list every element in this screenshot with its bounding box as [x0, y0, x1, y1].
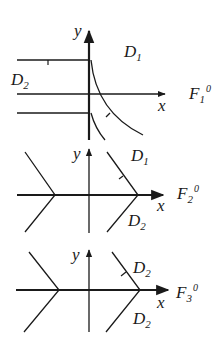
panel3-region-d2-upper: D2	[133, 259, 151, 276]
panel3-left-chevron	[24, 252, 59, 332]
panel1-region-d2: D2	[11, 71, 29, 88]
panel3-d2-tick	[121, 272, 126, 276]
panel3-x-label: x	[157, 294, 165, 311]
panel3-field-label: F30	[176, 284, 197, 301]
panel1-curve-tick	[106, 113, 110, 117]
panel1-hyperbola-curve	[91, 60, 143, 135]
panel1-region-d1: D1	[124, 43, 142, 60]
panel1-y-label: y	[74, 22, 82, 39]
panel2-region-d2: D2	[128, 212, 146, 229]
panel2-field-label: F20	[177, 185, 198, 202]
panel2-d1-tick	[119, 176, 123, 179]
panel1-x-label: x	[158, 97, 166, 114]
diagram-canvas: y D1 D2 x F10 y D1 x F20 D2 y D2 x F30 D…	[0, 0, 218, 355]
panel2-x-label: x	[157, 197, 165, 214]
panel1-field-label: F10	[189, 85, 210, 102]
panel2-region-d1: D1	[131, 147, 149, 164]
panel-f1	[17, 31, 165, 140]
panel2-left-chevron	[25, 152, 55, 232]
panel1-lower-curve	[91, 113, 105, 140]
panel3-y-label: y	[72, 246, 80, 263]
panel2-y-label: y	[73, 145, 81, 162]
panel3-region-d2-lower: D2	[133, 310, 151, 327]
